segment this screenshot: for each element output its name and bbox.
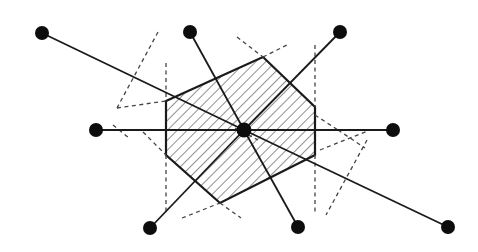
outer-point xyxy=(333,25,347,39)
dashed-line xyxy=(117,101,166,108)
dashed-line xyxy=(263,45,287,57)
dashed-line xyxy=(182,203,220,218)
outer-point xyxy=(183,25,197,39)
outer-point xyxy=(441,220,455,234)
outer-point xyxy=(143,221,157,235)
outer-point xyxy=(386,123,400,137)
dashed-line xyxy=(220,203,241,218)
center-point xyxy=(237,123,252,138)
dashed-line xyxy=(237,37,263,57)
dashed-line xyxy=(117,32,158,108)
dashed-line xyxy=(338,130,365,148)
dashed-line xyxy=(315,115,338,130)
dashed-line xyxy=(143,132,166,155)
points xyxy=(35,25,455,235)
outer-point xyxy=(89,123,103,137)
outer-point xyxy=(291,220,305,234)
diagram-svg xyxy=(0,0,478,252)
outer-point xyxy=(35,26,49,40)
dashed-line xyxy=(113,125,129,138)
ray-line xyxy=(244,130,448,227)
dashed-line xyxy=(326,140,367,215)
diagram-canvas xyxy=(0,0,478,252)
